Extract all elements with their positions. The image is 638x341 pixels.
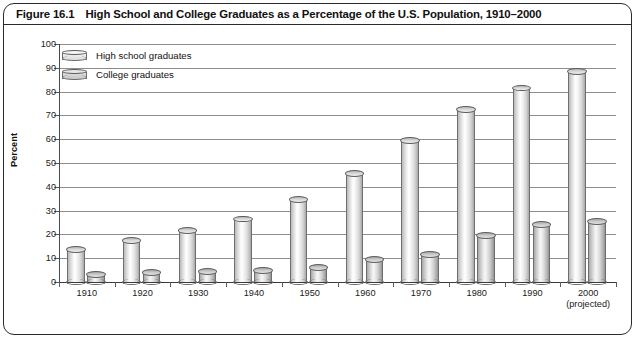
y-axis-tick-label: 20	[30, 229, 56, 239]
gridline	[59, 187, 616, 188]
y-axis-tick-label: 60	[30, 134, 56, 144]
x-axis-tick-mark	[59, 282, 60, 287]
bar-high-school-1960	[346, 174, 364, 282]
chart-plot-area: Percent 1009080706050403020100 191019201…	[0, 0, 638, 341]
y-axis-tick-label: 70	[30, 110, 56, 120]
bar-college-1940	[254, 270, 272, 282]
y-axis-tick-label: 10	[30, 253, 56, 263]
bar-college-1960	[366, 259, 384, 282]
bar-high-school-1910	[67, 250, 85, 282]
bar-college-1980	[477, 236, 495, 282]
bar-college-1920	[143, 272, 161, 282]
y-axis-line	[59, 44, 60, 282]
x-axis-tick-label: 2000(projected)	[552, 288, 624, 309]
y-axis-tick-label: 100	[30, 39, 56, 49]
bar-high-school-1940	[234, 219, 252, 282]
legend-item-college: College graduates	[62, 65, 191, 84]
x-axis-tick-mark	[226, 282, 227, 287]
figure-container: Figure 16.1 High School and College Grad…	[0, 0, 638, 341]
y-axis-tick-label: 30	[30, 206, 56, 216]
cylinder-dark-icon	[62, 69, 87, 80]
y-axis-tick-label: 80	[30, 87, 56, 97]
chart-legend: High school graduates College graduates	[62, 46, 191, 84]
gridline	[59, 44, 616, 45]
x-axis-tick-mark	[449, 282, 450, 287]
x-axis-tick-mark	[616, 282, 617, 287]
x-axis-tick-mark	[282, 282, 283, 287]
bar-high-school-1950	[290, 200, 308, 282]
x-axis-tick-mark	[505, 282, 506, 287]
bar-college-2000	[588, 221, 606, 282]
gridline	[59, 92, 616, 93]
legend-label-college: College graduates	[96, 69, 174, 80]
bar-college-1910	[87, 275, 105, 282]
x-axis-tick-mark	[338, 282, 339, 287]
x-axis-tick-mark	[560, 282, 561, 287]
x-axis-tick-note: (projected)	[552, 299, 624, 309]
y-axis-tick-label: 0	[30, 277, 56, 287]
cylinder-light-icon	[62, 50, 87, 61]
gridline	[59, 139, 616, 140]
bar-high-school-1990	[513, 88, 531, 282]
bar-college-1930	[199, 271, 217, 282]
bar-high-school-1930	[179, 231, 197, 282]
x-axis-tick-mark	[170, 282, 171, 287]
bar-college-1970	[421, 255, 439, 282]
y-axis-tick-label: 40	[30, 182, 56, 192]
gridline	[59, 115, 616, 116]
gridline	[59, 211, 616, 212]
bar-high-school-1980	[457, 109, 475, 282]
x-axis-tick-mark	[393, 282, 394, 287]
bar-high-school-1920	[123, 240, 141, 282]
x-axis-tick-mark	[115, 282, 116, 287]
bar-high-school-1970	[401, 140, 419, 282]
bar-college-1950	[310, 268, 328, 282]
y-axis-tick-label: 90	[30, 63, 56, 73]
bar-high-school-2000	[568, 71, 586, 282]
y-axis-tick-label: 50	[30, 158, 56, 168]
y-axis-title: Percent	[9, 115, 19, 185]
legend-label-high-school: High school graduates	[96, 50, 191, 61]
gridline	[59, 163, 616, 164]
legend-item-high-school: High school graduates	[62, 46, 191, 65]
bar-college-1990	[533, 225, 551, 282]
